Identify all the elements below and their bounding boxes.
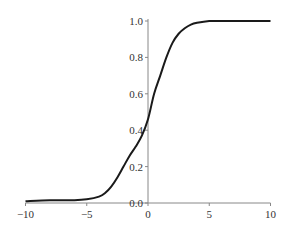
x-tick-label: 10 (265, 208, 277, 220)
axes: −10−505100.00.20.40.60.81.0 (17, 15, 277, 220)
line-chart: −10−505100.00.20.40.60.81.0 (0, 0, 292, 234)
x-tick-label: 0 (145, 208, 151, 220)
y-tick-label: 1.0 (129, 15, 143, 27)
y-tick-label: 0.6 (129, 88, 143, 100)
x-tick-label: 5 (207, 208, 213, 220)
y-tick-label: 0.0 (129, 197, 143, 209)
y-tick-label: 0.8 (129, 51, 143, 63)
x-tick-label: −5 (81, 208, 93, 220)
y-tick-label: 0.2 (129, 161, 143, 173)
x-tick-label: −10 (17, 208, 35, 220)
